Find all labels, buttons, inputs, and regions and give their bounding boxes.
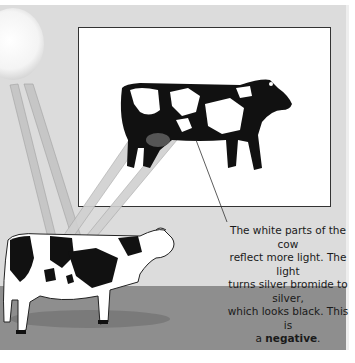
caption-line-1: The white parts of the cow (222, 224, 354, 251)
caption: The white parts of the cow reflect more … (222, 224, 354, 346)
caption-suffix: . (317, 332, 320, 344)
caption-line-3: turns silver bromide to silver, (222, 278, 354, 305)
negative-cow-image (121, 80, 292, 170)
real-cow (4, 228, 175, 334)
caption-line-4: which looks black. This is (222, 305, 354, 332)
caption-line-2: reflect more light. The light (222, 251, 354, 278)
caption-prefix: a (256, 332, 266, 344)
negative-term: negative (265, 332, 317, 344)
pointer-line (196, 140, 227, 222)
light-rays-down (10, 84, 82, 246)
caption-line-5: a negative. (222, 332, 354, 346)
